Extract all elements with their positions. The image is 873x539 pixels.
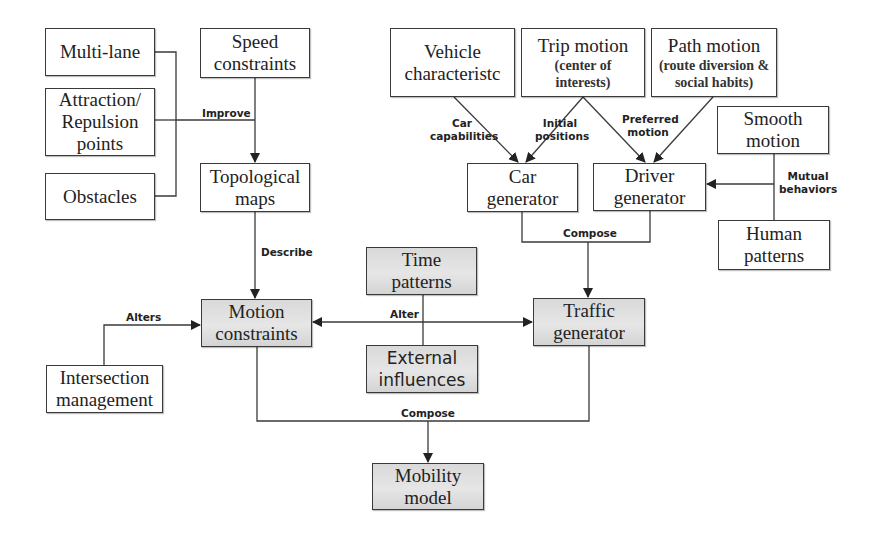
node-label: generator [553, 322, 625, 344]
edge-label-line: behaviors [779, 183, 837, 196]
node-motion-constraints: Motion constraints [201, 299, 312, 347]
node-human-patterns: Human patterns [718, 220, 830, 270]
bracket-left-inputs [155, 52, 176, 196]
edge-label-line: Initial [535, 117, 585, 130]
edge-label-compose-generators: Compose [563, 227, 617, 240]
node-topological-maps: Topological maps [200, 163, 310, 212]
node-label: generator [614, 187, 686, 209]
node-label: motion [746, 130, 800, 152]
node-label: Attraction/ [59, 89, 141, 111]
edge-label-car-capabilities: Car capabilities [430, 117, 494, 143]
node-label: External [387, 347, 458, 369]
node-speed-constraints: Speed constraints [200, 28, 310, 78]
node-attraction-repulsion: Attraction/ Repulsion points [45, 88, 155, 156]
node-label: Obstacles [63, 186, 137, 208]
node-label: Driver [625, 165, 675, 187]
edge-label-alter: Alter [390, 308, 419, 321]
node-label: constraints [214, 53, 296, 75]
edge-label-line: motion [622, 126, 674, 139]
node-intersection-management: Intersection management [46, 365, 163, 413]
node-label: model [404, 487, 452, 509]
mobility-model-diagram: Multi-lane Attraction/ Repulsion points … [0, 0, 873, 539]
edge-label-describe: Describe [261, 246, 313, 259]
node-path-motion: Path motion (route diversion & social ha… [651, 28, 777, 97]
node-label: Repulsion [61, 111, 138, 133]
node-time-patterns: Time patterns [366, 247, 477, 295]
node-sublabel: (route diversion & [659, 57, 769, 74]
node-driver-generator: Driver generator [593, 163, 706, 211]
edge-label-improve: Improve [202, 107, 251, 120]
node-label: generator [487, 188, 559, 210]
edge-label-line: positions [535, 130, 585, 143]
edge-label-line: Preferred [622, 113, 674, 126]
edge-label-compose-model: Compose [401, 407, 455, 420]
node-sublabel: (center of [555, 57, 612, 74]
node-car-generator: Car generator [467, 163, 578, 212]
node-label: patterns [391, 271, 451, 293]
node-mobility-model: Mobility model [372, 463, 484, 510]
node-label: Speed [232, 31, 278, 53]
node-label: points [77, 133, 123, 155]
node-label: Intersection [60, 367, 150, 389]
node-multi-lane: Multi-lane [45, 28, 155, 76]
alters-arrow [104, 325, 200, 365]
edge-label-mutual-behaviors: Mutual behaviors [779, 170, 837, 196]
node-label: management [56, 389, 153, 411]
node-label: Topological [210, 166, 300, 188]
node-label: Path motion [668, 35, 760, 57]
edge-label-line: Mutual [779, 170, 837, 183]
node-obstacles: Obstacles [45, 173, 155, 220]
node-label: characteristc [405, 63, 501, 85]
edge-label-initial-positions: Initial positions [535, 117, 585, 143]
edge-label-line: Car [430, 117, 494, 130]
node-label: Motion [229, 301, 285, 323]
node-label: constraints [215, 323, 297, 345]
node-label: maps [235, 188, 275, 210]
edge-label-preferred-motion: Preferred motion [622, 113, 674, 139]
node-label: Car [509, 166, 536, 188]
node-label: Smooth [743, 108, 802, 130]
node-smooth-motion: Smooth motion [717, 106, 829, 154]
node-label: Multi-lane [60, 41, 140, 63]
edge-label-line: capabilities [430, 130, 494, 143]
node-label: Trip motion [538, 35, 629, 57]
node-label: patterns [744, 245, 804, 267]
node-trip-motion: Trip motion (center of interests) [521, 28, 645, 97]
node-external-influences: External influences [366, 345, 478, 393]
node-sublabel: interests) [556, 74, 611, 91]
node-label: Mobility [395, 465, 462, 487]
node-label: influences [379, 369, 466, 391]
node-label: Human [746, 223, 802, 245]
edge-label-alters: Alters [126, 311, 161, 324]
node-vehicle-characteristic: Vehicle characteristc [390, 28, 515, 97]
node-label: Time [402, 249, 441, 271]
node-label: Vehicle [424, 41, 481, 63]
node-traffic-generator: Traffic generator [533, 298, 645, 346]
node-sublabel: social habits) [675, 74, 753, 91]
node-label: Traffic [563, 300, 615, 322]
